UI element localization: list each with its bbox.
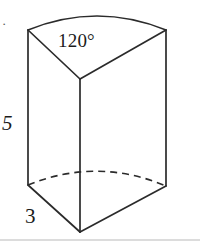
central-angle-label: 120°: [58, 31, 95, 50]
radius-label: 3: [25, 206, 36, 227]
height-label: 5: [2, 113, 13, 134]
geometry-figure: · 120° 5 3: [0, 0, 200, 244]
list-item-marker: ·: [2, 17, 6, 30]
